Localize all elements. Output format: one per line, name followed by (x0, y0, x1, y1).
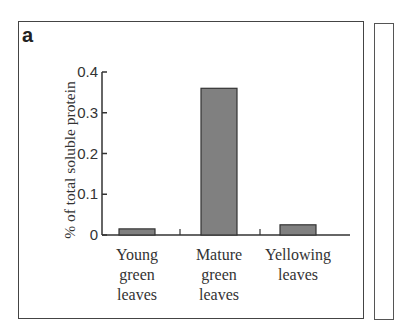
bar (280, 225, 316, 235)
bar (119, 229, 155, 235)
bar (201, 88, 237, 235)
